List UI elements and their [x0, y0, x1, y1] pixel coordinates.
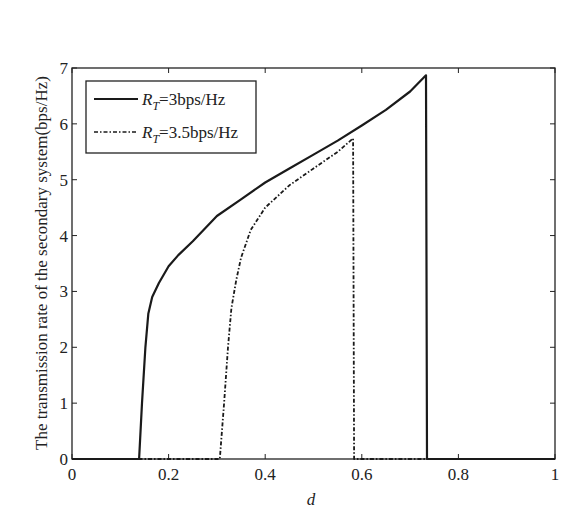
- y-tick-label: 6: [60, 115, 69, 134]
- y-tick-label: 0: [60, 450, 69, 469]
- x-tick-label: 1: [551, 465, 560, 484]
- y-tick-label: 2: [60, 338, 69, 357]
- x-tick-label: 0: [68, 465, 77, 484]
- y-tick-label: 7: [60, 59, 69, 78]
- y-tick-label: 1: [60, 394, 69, 413]
- y-tick-label: 4: [60, 227, 69, 246]
- legend: RT=3bps/Hz RT=3.5bps/Hz: [86, 81, 256, 153]
- y-tick-label: 3: [60, 282, 69, 301]
- line-chart: 00.20.40.60.8101234567 d The transmissio…: [0, 0, 588, 525]
- y-tick-label: 5: [60, 171, 69, 190]
- x-axis-label: d: [307, 490, 316, 509]
- y-axis-label: The transmission rate of the secondary s…: [32, 76, 51, 450]
- x-tick-label: 0.2: [158, 465, 179, 484]
- x-tick-label: 0.8: [448, 465, 469, 484]
- x-tick-label: 0.4: [255, 465, 277, 484]
- x-tick-label: 0.6: [351, 465, 372, 484]
